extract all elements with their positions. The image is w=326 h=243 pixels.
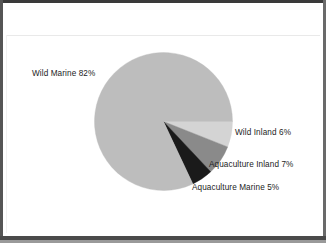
slice-label-aquaculture-inland: Aquaculture Inland 7% xyxy=(209,161,294,169)
slice-label-wild-marine: Wild Marine 82% xyxy=(32,70,95,78)
slice-label-aquaculture-marine: Aquaculture Marine 5% xyxy=(192,184,279,192)
pie-chart: Wild Marine 82% Wild Inland 6% Aquacultu… xyxy=(0,0,326,243)
slice-label-wild-inland: Wild Inland 6% xyxy=(235,129,291,137)
figure-page: Wild Marine 82% Wild Inland 6% Aquacultu… xyxy=(0,0,326,243)
pie-chart-svg xyxy=(94,52,233,191)
